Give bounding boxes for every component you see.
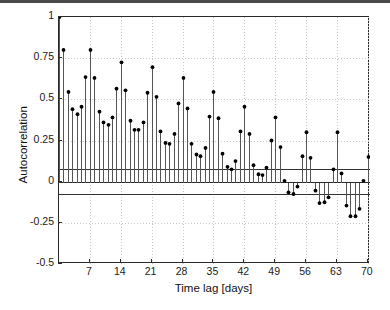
data-point-marker (358, 207, 362, 211)
x-tick-mark (182, 259, 183, 263)
autocorrelation-figure: Autocorrelation 10.750.50.250-0.25-0.5 7… (0, 0, 390, 310)
y-tick-mark (58, 140, 62, 141)
data-point-marker (248, 132, 252, 136)
data-point-marker (221, 152, 225, 156)
data-point-marker (296, 185, 300, 189)
data-point-marker (314, 189, 318, 193)
data-point-marker (327, 195, 331, 199)
data-point-marker (107, 123, 111, 127)
x-tick-label: 28 (176, 266, 188, 277)
data-point-marker (137, 128, 141, 132)
data-point-marker (146, 91, 150, 95)
stem-plot-svg (59, 17, 370, 264)
x-tick-label: 63 (330, 266, 342, 277)
y-tick-label: 0.25 (34, 134, 54, 145)
data-point-marker (155, 95, 159, 99)
grid-lines (59, 17, 370, 264)
data-point-marker (59, 17, 61, 19)
data-point-marker (354, 214, 358, 218)
data-point-marker (217, 116, 221, 120)
data-point-marker (89, 48, 93, 52)
data-point-marker (133, 128, 137, 132)
data-point-marker (177, 102, 181, 106)
data-point-marker (111, 116, 115, 120)
data-point-marker (164, 141, 168, 145)
x-tick-mark (367, 259, 368, 263)
data-point-marker (204, 146, 208, 150)
data-point-marker (93, 76, 97, 80)
y-tick-label: 1 (48, 10, 54, 21)
data-point-marker (261, 173, 265, 177)
x-tick-mark (212, 259, 213, 263)
x-tick-mark (336, 259, 337, 263)
x-tick-mark (305, 259, 306, 263)
data-point-marker (80, 105, 84, 109)
data-point-marker (270, 139, 274, 143)
data-point-marker (195, 153, 199, 157)
x-tick-label: 42 (237, 266, 249, 277)
data-point-marker (159, 130, 163, 134)
data-point-marker (349, 214, 353, 218)
y-tick-mark (58, 222, 62, 223)
data-point-marker (168, 142, 172, 146)
data-point-marker (234, 159, 238, 163)
x-tick-label: 7 (86, 266, 92, 277)
x-tick-label: 56 (299, 266, 311, 277)
y-tick-mark (58, 181, 62, 182)
data-point-marker (283, 179, 287, 183)
data-point-marker (208, 115, 212, 119)
data-point-marker (305, 130, 309, 134)
y-tick-label: 0.75 (34, 51, 54, 62)
top-edge-artifact (0, 0, 390, 3)
data-point-marker (257, 172, 261, 176)
y-tick-label: 0 (48, 175, 54, 186)
data-point-marker (190, 142, 194, 146)
data-point-marker (265, 166, 269, 170)
data-point-marker (120, 60, 124, 64)
x-tick-label: 14 (114, 266, 126, 277)
data-point-marker (186, 106, 190, 110)
y-tick-mark (58, 16, 62, 17)
data-point-marker (336, 130, 340, 134)
data-point-marker (274, 116, 278, 120)
data-point-marker (230, 167, 234, 171)
x-tick-label: 70 (361, 266, 373, 277)
data-point-marker (367, 155, 370, 159)
data-point-marker (102, 120, 106, 124)
data-point-marker (309, 156, 313, 160)
x-tick-mark (89, 259, 90, 263)
data-point-marker (124, 88, 128, 92)
data-point-marker (212, 90, 216, 94)
y-tick-mark (58, 98, 62, 99)
data-point-marker (252, 163, 256, 167)
data-point-marker (332, 167, 336, 171)
data-point-marker (239, 130, 243, 134)
x-tick-mark (243, 259, 244, 263)
x-tick-mark (120, 259, 121, 263)
data-point-marker (279, 145, 283, 149)
data-point-marker (76, 112, 80, 116)
y-tick-label: -0.25 (30, 216, 54, 227)
y-axis-label: Autocorrelation (18, 75, 30, 215)
data-point-marker (199, 154, 203, 158)
data-point-marker (182, 76, 186, 80)
data-point-marker (340, 172, 344, 176)
data-point-marker (345, 204, 349, 208)
data-point-marker (292, 192, 296, 196)
x-axis-label: Time lag [days] (58, 283, 369, 295)
y-tick-label: 0.5 (39, 92, 54, 103)
data-point-marker (84, 75, 88, 79)
confidence-bound-lines (59, 170, 370, 195)
y-tick-mark (58, 263, 62, 264)
data-point-marker (129, 119, 133, 123)
y-tick-label: -0.5 (36, 257, 54, 268)
data-point-marker (318, 201, 322, 205)
data-point-marker (151, 65, 155, 69)
stem-markers (59, 17, 370, 218)
data-point-marker (323, 200, 327, 204)
y-tick-mark (58, 57, 62, 58)
data-point-marker (173, 132, 177, 136)
data-point-marker (71, 107, 75, 111)
x-tick-label: 49 (268, 266, 280, 277)
x-tick-mark (151, 259, 152, 263)
